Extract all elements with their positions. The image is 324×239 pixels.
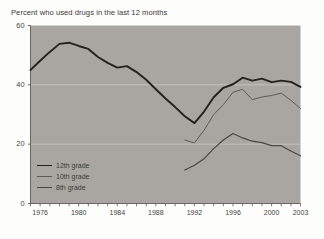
chart-legend: 12th grade10th grade8th grade bbox=[37, 160, 89, 193]
chart-plot-area bbox=[0, 0, 324, 239]
legend-line-swatch-icon bbox=[37, 187, 52, 188]
x-axis-tick-label: 1992 bbox=[181, 209, 207, 216]
y-axis-tick-label: 20 bbox=[9, 139, 25, 148]
legend-item-label: 8th grade bbox=[56, 182, 86, 193]
y-axis-tick-label: 60 bbox=[9, 21, 25, 30]
legend-item-label: 12th grade bbox=[56, 160, 89, 171]
y-axis-tick-label: 40 bbox=[9, 80, 25, 89]
y-axis-tick-label: 0 bbox=[9, 199, 25, 208]
x-axis-tick-label: 1996 bbox=[220, 209, 246, 216]
x-axis-tick-label: 2000 bbox=[259, 209, 285, 216]
legend-item-label: 10th grade bbox=[56, 171, 89, 182]
x-axis-tick-label: 1988 bbox=[143, 209, 169, 216]
legend-line-swatch-icon bbox=[37, 176, 52, 177]
legend-item-10th-grade: 10th grade bbox=[37, 171, 89, 182]
legend-item-12th-grade: 12th grade bbox=[37, 160, 89, 171]
chart-figure: Percent who used drugs in the last 12 mo… bbox=[0, 0, 324, 239]
x-axis-tick-label: 2003 bbox=[288, 209, 314, 216]
x-axis-tick-label: 1980 bbox=[66, 209, 92, 216]
legend-line-swatch-icon bbox=[37, 165, 52, 167]
x-axis-tick-label: 1976 bbox=[27, 209, 53, 216]
x-axis-tick-label: 1984 bbox=[104, 209, 130, 216]
legend-item-8th-grade: 8th grade bbox=[37, 182, 89, 193]
